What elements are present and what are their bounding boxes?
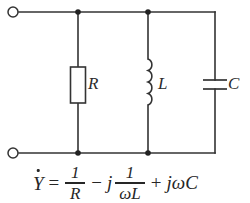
junction-dot-top-inductor [145, 9, 151, 15]
admittance-formula: Y = 1 R − j 1 ωL + jωC [32, 164, 199, 202]
capacitor-label: C [228, 75, 239, 92]
formula-minus-sign: − [91, 172, 102, 194]
formula-equals-sign: = [49, 172, 60, 194]
junction-dot-top-resistor [75, 9, 81, 15]
terminal-top-left-icon [8, 7, 18, 17]
dot-accent-icon [37, 169, 40, 172]
formula-plus-sign: + [151, 172, 162, 194]
terminal-bottom-left-icon [8, 148, 18, 158]
formula-term-two-fraction: 1 ωL [115, 164, 144, 202]
formula-lhs-symbol: Y [33, 171, 44, 195]
circuit-diagram-figure: R L C Y = 1 R − j 1 ωL + jωC [0, 0, 250, 203]
formula-term-three: jωC [166, 172, 197, 194]
formula-term-two-numerator: 1 [122, 164, 139, 182]
junction-dot-bottom-resistor [75, 150, 81, 156]
inductor-symbol [148, 59, 152, 105]
capacitor-symbol [203, 80, 227, 89]
junction-dot-bottom-inductor [145, 150, 151, 156]
formula-lhs-letter: Y [33, 173, 44, 194]
formula-term-two-denominator: ωL [115, 184, 144, 202]
resistor-label: R [88, 75, 98, 92]
resistor-symbol [71, 67, 86, 103]
formula-term-one-fraction: 1 R [65, 164, 85, 202]
inductor-label: L [158, 75, 167, 92]
formula-term-one-denominator: R [66, 184, 84, 202]
formula-j-imaginary-unit: j [107, 172, 112, 194]
formula-term-one-numerator: 1 [67, 164, 84, 182]
